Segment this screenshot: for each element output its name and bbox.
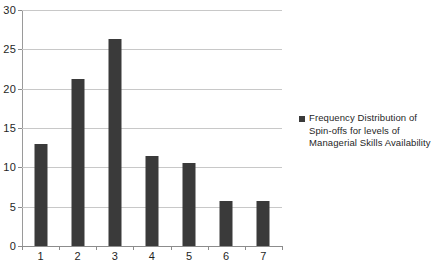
bar [34,144,47,246]
x-axis-tick-label: 1 [37,250,43,262]
x-axis-tick-label: 7 [260,250,266,262]
x-axis-tick-label: 4 [149,250,155,262]
bar-slot [245,10,282,246]
x-tick-mark [171,246,172,250]
x-axis-tick-label: 3 [112,250,118,262]
bar [145,156,158,246]
bars-layer [22,10,282,246]
y-axis-tick-label: 0 [10,241,16,252]
x-tick-mark [245,246,246,250]
x-tick-mark [282,246,283,250]
y-axis-tick-label: 25 [3,44,16,55]
plot-area: 051015202530 [22,10,282,246]
x-tick-mark [59,246,60,250]
x-axis-line [22,246,282,247]
x-axis-tick-label: 2 [75,250,81,262]
bar [220,201,233,246]
x-axis-tick-label: 6 [223,250,229,262]
bar-slot [171,10,208,246]
y-axis-tick-label: 10 [3,162,16,173]
bar-slot [133,10,170,246]
legend-color-swatch-icon [299,116,305,122]
x-axis-tick-label: 5 [186,250,192,262]
bar [257,201,270,246]
bar-slot [22,10,59,246]
bar-slot [208,10,245,246]
y-axis-tick-label: 15 [3,123,16,134]
bar-slot [96,10,133,246]
x-tick-mark [22,246,23,250]
bar-slot [59,10,96,246]
x-tick-mark [133,246,134,250]
x-tick-mark [208,246,209,250]
bar [183,163,196,246]
y-axis-tick-label: 20 [3,83,16,94]
y-axis-tick-label: 30 [3,5,16,16]
x-tick-mark [96,246,97,250]
y-axis-tick-label: 5 [10,201,16,212]
chart-legend: Frequency Distribution of Spin-offs for … [299,112,435,150]
bar-chart: 051015202530 1234567 Frequency Distribut… [0,0,440,269]
bar [71,79,84,246]
bar [108,39,121,246]
legend-label: Frequency Distribution of Spin-offs for … [309,112,435,150]
